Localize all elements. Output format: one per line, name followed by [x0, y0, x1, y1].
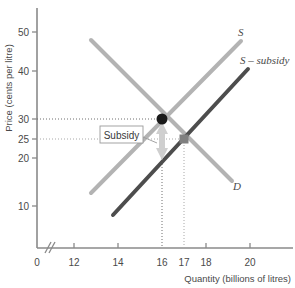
x-tick-label-14: 14	[112, 257, 124, 268]
x-tick-label-16: 16	[156, 257, 168, 268]
subsidy-callout-label: Subsidy	[104, 130, 140, 141]
x-tick-label-12: 12	[68, 257, 80, 268]
x-tick-label-17: 17	[178, 257, 190, 268]
supply-demand-subsidy-figure: 50 40 30 25 20 10 0 12 14 16 17 18 20	[0, 0, 295, 288]
supply-curve-label: S	[238, 26, 244, 38]
y-tick-label-30: 30	[18, 114, 30, 125]
y-tick-label-20: 20	[18, 153, 30, 164]
x-tick-label-0: 0	[34, 257, 40, 268]
chart-canvas: 50 40 30 25 20 10 0 12 14 16 17 18 20	[0, 0, 295, 288]
supply-minus-subsidy-curve-label: S – subsidy	[240, 54, 290, 66]
x-axis-title: Quantity (billions of litres)	[184, 273, 291, 284]
y-tick-label-50: 50	[18, 27, 30, 38]
y-tick-label-40: 40	[18, 66, 30, 77]
y-tick-label-10: 10	[18, 201, 30, 212]
x-tick-label-18: 18	[200, 257, 212, 268]
equilibrium-marker-with-subsidy	[180, 135, 189, 144]
y-tick-label-25: 25	[18, 134, 30, 145]
x-tick-label-20: 20	[244, 257, 256, 268]
demand-curve-label: D	[232, 180, 241, 192]
equilibrium-marker-no-subsidy	[157, 114, 168, 125]
y-axis-title: Price (cents per litre)	[3, 44, 14, 132]
